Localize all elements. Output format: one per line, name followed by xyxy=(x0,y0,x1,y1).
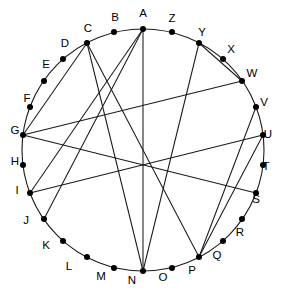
graph-node-p xyxy=(84,254,90,260)
graph-node-e xyxy=(239,78,245,84)
graph-node-label-m: M xyxy=(96,270,106,282)
graph-node-d xyxy=(220,56,226,62)
graph-node-v xyxy=(27,104,33,110)
graph-node-label-p: P xyxy=(188,264,196,276)
graph-node-label-n: N xyxy=(128,274,136,286)
graph-node-label-z: Z xyxy=(168,12,175,24)
graph-node-r xyxy=(41,216,47,222)
graph-node-c xyxy=(196,40,202,46)
graph-edge-e-u xyxy=(23,81,242,135)
graph-edge-a-s xyxy=(30,29,143,193)
graph-node-w xyxy=(41,78,47,84)
graph-node-label-q: Q xyxy=(213,249,222,261)
graph-node-label-o: O xyxy=(159,271,168,283)
circular-graph-figure: ABCDEFGHIJKLMNOPQRSTUVWXYZ xyxy=(0,0,286,297)
graph-node-label-r: R xyxy=(236,226,244,238)
graph-edge-c-e xyxy=(199,43,242,81)
graph-node-j xyxy=(239,216,245,222)
graph-node-label-f: F xyxy=(23,92,30,104)
graph-node-z xyxy=(111,29,117,35)
graph-node-l xyxy=(196,254,202,260)
graph-node-label-x: X xyxy=(227,43,235,55)
graph-node-q xyxy=(60,238,66,244)
graph-node-s xyxy=(27,190,33,196)
graph-node-label-u: U xyxy=(264,128,272,140)
graph-node-o xyxy=(111,265,117,271)
graph-node-t xyxy=(20,162,26,168)
graph-node-k xyxy=(220,238,226,244)
graph-node-x xyxy=(60,56,66,62)
graph-node-label-l: L xyxy=(66,260,73,272)
graph-node-label-h: H xyxy=(11,155,19,167)
graph-canvas: ABCDEFGHIJKLMNOPQRSTUVWXYZ xyxy=(0,0,286,297)
graph-node-label-a: A xyxy=(139,7,147,19)
graph-node-m xyxy=(169,265,175,271)
graph-node-label-j: J xyxy=(23,214,29,226)
graph-node-label-t: T xyxy=(262,160,269,172)
graph-node-n xyxy=(140,268,146,274)
graph-edge-g-s xyxy=(30,135,263,193)
graph-edge-f-l xyxy=(199,107,256,257)
graph-edge-a-r xyxy=(44,29,143,219)
graph-node-label-d: D xyxy=(61,37,69,49)
graph-edge-c-n xyxy=(143,43,199,271)
graph-node-a xyxy=(140,26,146,32)
graph-node-label-k: K xyxy=(42,239,50,251)
graph-node-label-e: E xyxy=(42,58,50,70)
graph-node-label-s: S xyxy=(252,193,260,205)
graph-node-label-b: B xyxy=(111,11,119,23)
graph-node-label-y: Y xyxy=(198,26,206,38)
graph-node-label-c: C xyxy=(84,22,92,34)
graph-node-y xyxy=(84,40,90,46)
graph-node-f xyxy=(253,104,259,110)
edge-layer xyxy=(23,29,263,271)
graph-node-u xyxy=(20,132,26,138)
graph-node-label-w: W xyxy=(247,67,258,79)
graph-node-label-g: G xyxy=(11,124,20,136)
graph-node-label-i: I xyxy=(15,184,18,196)
graph-node-b xyxy=(169,29,175,35)
graph-edge-y-n xyxy=(87,43,143,271)
graph-node-label-v: V xyxy=(260,96,268,108)
